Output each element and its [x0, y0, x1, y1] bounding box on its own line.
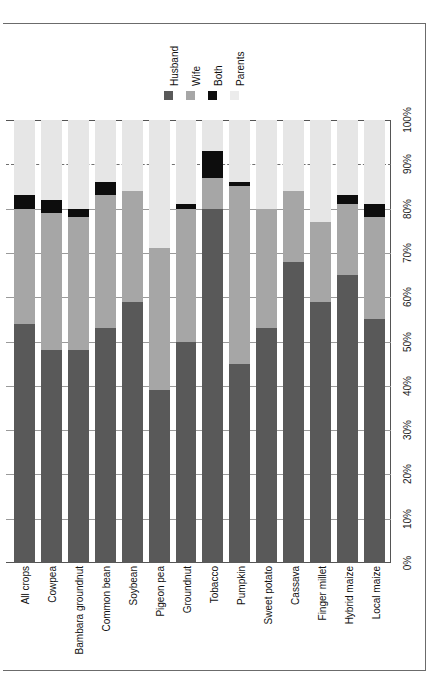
bar-segment-parents[interactable] — [68, 120, 89, 209]
chart-page: HusbandWifeBothParents 0%10%20%30%40%50%… — [0, 0, 429, 693]
bar-segment-husband[interactable] — [202, 209, 223, 563]
category-label-cowpea: Cowpea — [46, 566, 57, 603]
bar-segment-wife[interactable] — [41, 213, 62, 350]
legend-item-wife[interactable]: Wife — [182, 34, 204, 112]
bar-segment-both[interactable] — [337, 195, 358, 204]
category-label-slot: Pigeon pea — [149, 566, 170, 686]
bar-pumpkin[interactable] — [229, 120, 250, 563]
bar-segment-parents[interactable] — [14, 120, 35, 195]
bar-segment-wife[interactable] — [337, 204, 358, 275]
value-tick-0pct: 0% — [391, 556, 425, 570]
bar-segment-husband[interactable] — [229, 364, 250, 563]
category-label-slot: Pumpkin — [230, 566, 251, 686]
bar-segment-wife[interactable] — [95, 195, 116, 328]
bar-segment-husband[interactable] — [337, 275, 358, 563]
category-label-slot: Tobacco — [203, 566, 224, 686]
bar-segment-husband[interactable] — [95, 328, 116, 563]
value-tick-label: 100% — [401, 103, 415, 137]
bar-segment-husband[interactable] — [283, 262, 304, 563]
value-tick-10pct: 10% — [391, 512, 425, 526]
bar-segment-husband[interactable] — [364, 319, 385, 563]
category-label-slot: Hybrid maize — [338, 566, 359, 686]
bar-pigeon-pea[interactable] — [149, 120, 170, 563]
category-label-common-bean: Common bean — [100, 566, 111, 632]
value-tick-label: 20% — [401, 457, 415, 491]
category-label-slot: Local maize — [365, 566, 386, 686]
bar-segment-husband[interactable] — [176, 342, 197, 564]
bar-segment-wife[interactable] — [68, 217, 89, 350]
plot-area — [6, 120, 391, 563]
bar-segment-husband[interactable] — [256, 328, 277, 563]
bar-segment-parents[interactable] — [229, 120, 250, 182]
category-label-slot: Cassava — [284, 566, 305, 686]
value-tick-label: 30% — [401, 413, 415, 447]
bar-segment-parents[interactable] — [202, 120, 223, 151]
bar-segment-parents[interactable] — [283, 120, 304, 191]
bar-segment-parents[interactable] — [310, 120, 331, 222]
bar-tobacco[interactable] — [202, 120, 223, 563]
bar-segment-husband[interactable] — [310, 302, 331, 563]
category-label-cassava: Cassava — [289, 566, 300, 605]
bar-soybean[interactable] — [122, 120, 143, 563]
bar-segment-husband[interactable] — [68, 350, 89, 563]
value-tick-label: 70% — [401, 236, 415, 270]
category-label-all-crops: All crops — [19, 566, 30, 604]
bar-segment-parents[interactable] — [256, 120, 277, 209]
bar-segment-wife[interactable] — [149, 248, 170, 390]
bar-segment-parents[interactable] — [122, 120, 143, 191]
value-tick-label: 10% — [401, 502, 415, 536]
bar-segment-parents[interactable] — [176, 120, 197, 204]
category-axis-labels: All cropsCowpeaBambara groundnutCommon b… — [6, 566, 391, 688]
bar-segment-wife[interactable] — [229, 186, 250, 363]
bar-cassava[interactable] — [283, 120, 304, 563]
legend-swatch-husband — [164, 91, 173, 100]
bar-segment-parents[interactable] — [364, 120, 385, 204]
value-tick-40pct: 40% — [391, 379, 425, 393]
bar-segment-parents[interactable] — [95, 120, 116, 182]
legend-item-both[interactable]: Both — [204, 34, 226, 112]
bar-segment-wife[interactable] — [283, 191, 304, 262]
bar-sweet-potato[interactable] — [256, 120, 277, 563]
value-tick-70pct: 70% — [391, 246, 425, 260]
bar-segment-wife[interactable] — [364, 217, 385, 319]
bar-bambara-groundnut[interactable] — [68, 120, 89, 563]
legend-label-husband: Husband — [169, 46, 180, 86]
bar-segment-husband[interactable] — [122, 302, 143, 563]
bar-segment-both[interactable] — [202, 151, 223, 178]
bar-hybrid-maize[interactable] — [337, 120, 358, 563]
bar-segment-husband[interactable] — [41, 350, 62, 563]
bar-segment-wife[interactable] — [202, 178, 223, 209]
chart-legend: HusbandWifeBothParents — [160, 34, 270, 112]
category-label-slot: Bambara groundnut — [68, 566, 89, 686]
bar-segment-parents[interactable] — [149, 120, 170, 248]
bar-segment-parents[interactable] — [337, 120, 358, 195]
category-label-slot: Cowpea — [41, 566, 62, 686]
legend-swatch-parents — [230, 91, 239, 100]
category-label-finger-millet: Finger millet — [316, 566, 327, 620]
category-label-slot: Soybean — [122, 566, 143, 686]
bar-segment-both[interactable] — [95, 182, 116, 195]
bar-segment-wife[interactable] — [310, 222, 331, 302]
bar-segment-both[interactable] — [364, 204, 385, 217]
bar-segment-wife[interactable] — [14, 209, 35, 324]
legend-swatch-wife — [186, 91, 195, 100]
bar-finger-millet[interactable] — [310, 120, 331, 563]
category-label-hybrid-maize: Hybrid maize — [343, 566, 354, 624]
bar-segment-parents[interactable] — [41, 120, 62, 200]
legend-item-husband[interactable]: Husband — [160, 34, 182, 112]
bar-all-crops[interactable] — [14, 120, 35, 563]
bar-common-bean[interactable] — [95, 120, 116, 563]
bar-segment-wife[interactable] — [122, 191, 143, 302]
bar-segment-husband[interactable] — [149, 390, 170, 563]
value-tick-label: 50% — [401, 325, 415, 359]
legend-item-parents[interactable]: Parents — [226, 34, 248, 112]
bar-segment-both[interactable] — [14, 195, 35, 208]
bar-segment-wife[interactable] — [256, 209, 277, 329]
bar-segment-wife[interactable] — [176, 209, 197, 342]
bar-cowpea[interactable] — [41, 120, 62, 563]
bar-segment-both[interactable] — [41, 200, 62, 213]
bar-segment-both[interactable] — [68, 209, 89, 218]
bar-local-maize[interactable] — [364, 120, 385, 563]
bar-groundnut[interactable] — [176, 120, 197, 563]
bar-segment-husband[interactable] — [14, 324, 35, 563]
